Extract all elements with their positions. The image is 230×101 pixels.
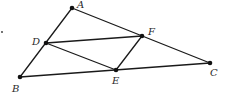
segment-de: [46, 43, 116, 70]
point-e: [114, 68, 119, 73]
label-c: C: [210, 67, 218, 78]
label-e: E: [111, 75, 120, 86]
point-c: [208, 61, 213, 66]
point-f: [140, 34, 145, 39]
label-b: B: [11, 83, 19, 94]
stray-dot: [1, 31, 3, 33]
segment-ef: [116, 36, 142, 70]
triangle-diagram: ABCDEF: [0, 0, 230, 101]
label-d: D: [31, 36, 40, 47]
segments-group: [20, 8, 210, 77]
points-group: [18, 6, 213, 80]
point-d: [44, 41, 49, 46]
segment-df: [46, 36, 142, 43]
point-b: [18, 75, 23, 80]
point-a: [70, 6, 75, 11]
label-a: A: [76, 0, 84, 10]
label-f: F: [147, 26, 156, 37]
